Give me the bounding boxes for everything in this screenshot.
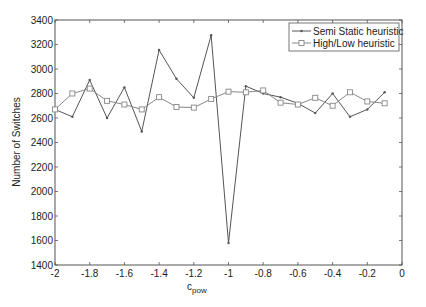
data-point-square <box>295 102 300 107</box>
x-tick-label: 0 <box>399 268 405 279</box>
data-point-dot <box>349 116 351 118</box>
x-tick-label: -1.2 <box>185 268 203 279</box>
data-point-square <box>122 102 127 107</box>
y-tick-label: 3000 <box>31 64 54 75</box>
data-point-square <box>347 90 352 95</box>
x-tick-label: -0.2 <box>359 268 377 279</box>
y-tick-label: 2000 <box>31 186 54 197</box>
y-tick-label: 3400 <box>31 15 54 26</box>
y-tick-label: 3200 <box>31 39 54 50</box>
y-tick-label: 2600 <box>31 113 54 124</box>
data-point-dot <box>383 91 385 93</box>
legend-label-semi-static: Semi Static heuristic <box>313 26 404 37</box>
x-tick-label: -0.6 <box>289 268 307 279</box>
data-point-square <box>53 107 58 112</box>
data-point-square <box>139 107 144 112</box>
legend-dot-marker-icon <box>300 30 302 32</box>
data-point-square <box>87 86 92 91</box>
y-tick-label: 2200 <box>31 162 54 173</box>
x-tick-label: -0.4 <box>324 268 342 279</box>
y-tick-label: 2800 <box>31 88 54 99</box>
data-point-square <box>365 99 370 104</box>
data-point-dot <box>123 86 125 88</box>
data-point-square <box>330 103 335 108</box>
data-point-dot <box>89 79 91 81</box>
data-point-square <box>157 95 162 100</box>
data-point-dot <box>366 108 368 110</box>
y-tick-label: 1600 <box>31 235 54 246</box>
data-point-dot <box>210 34 212 36</box>
y-axis-label: Number of Switches <box>11 97 22 186</box>
data-point-dot <box>193 97 195 99</box>
data-point-square <box>174 104 179 109</box>
data-point-square <box>191 105 196 110</box>
plot-area <box>55 20 402 265</box>
legend-label-high-low: High/Low heuristic <box>313 38 395 49</box>
data-point-square <box>70 91 75 96</box>
x-axis-label: cpow <box>187 281 207 295</box>
x-tick-label: -1.6 <box>116 268 134 279</box>
data-point-square <box>226 89 231 94</box>
data-point-square <box>261 88 266 93</box>
data-point-dot <box>71 116 73 118</box>
data-point-dot <box>106 117 108 119</box>
x-tick-label: -0.8 <box>255 268 273 279</box>
y-tick-label: 2400 <box>31 137 54 148</box>
data-point-square <box>278 100 283 105</box>
data-point-dot <box>331 92 333 94</box>
data-point-square <box>382 101 387 106</box>
x-tick-label: -1.4 <box>150 268 168 279</box>
data-point-square <box>313 95 318 100</box>
data-point-dot <box>227 242 229 244</box>
data-point-dot <box>158 49 160 51</box>
data-point-dot <box>314 112 316 114</box>
y-tick-label: 1400 <box>31 260 54 271</box>
legend-square-marker-icon <box>299 41 304 46</box>
legend: Semi Static heuristic High/Low heuristic <box>289 23 404 51</box>
y-tick-label: 1800 <box>31 211 54 222</box>
x-tick-label: -1.8 <box>81 268 99 279</box>
data-point-square <box>243 90 248 95</box>
data-point-dot <box>279 96 281 98</box>
data-point-dot <box>175 78 177 80</box>
data-point-dot <box>245 85 247 87</box>
data-point-dot <box>141 130 143 132</box>
x-tick-label: -1 <box>224 268 233 279</box>
data-point-square <box>105 98 110 103</box>
data-point-square <box>209 97 214 102</box>
line-chart: -2-1.8-1.6-1.4-1.2-1-0.8-0.6-0.4-0.20 14… <box>0 0 426 307</box>
